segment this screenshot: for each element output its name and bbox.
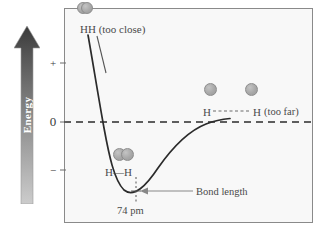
atom-sphere-too-close-right bbox=[81, 2, 93, 14]
label-bond-length-callout: Bond length bbox=[196, 186, 248, 198]
y-tick-positive: + bbox=[45, 58, 61, 69]
energy-axis-arrow bbox=[14, 26, 40, 204]
label-too-close: HH (too close) bbox=[80, 23, 145, 35]
label-bonded-pair: H—H bbox=[105, 166, 132, 178]
atom-sphere-bonded-right bbox=[121, 148, 134, 161]
label-h-atom-left: H bbox=[203, 106, 211, 118]
y-tick-zero: 0 bbox=[45, 116, 61, 127]
atom-sphere-too-far-right bbox=[245, 83, 258, 96]
label-too-far: (too far) bbox=[264, 106, 299, 118]
atom-sphere-too-far-left bbox=[204, 83, 217, 96]
potential-energy-diagram: Energy + 0 − HH (too close) H H (too fa bbox=[0, 0, 321, 233]
y-tick-negative: − bbox=[45, 165, 61, 176]
label-h-atom-right: H bbox=[253, 106, 261, 118]
label-bond-distance: 74 pm bbox=[117, 205, 144, 217]
